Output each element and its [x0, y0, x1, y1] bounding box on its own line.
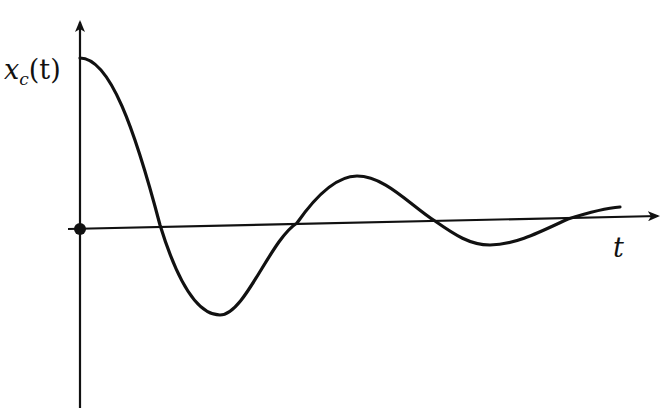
- damped-oscillation-diagram: xc(t) t: [0, 0, 670, 420]
- y-axis-label: xc(t): [4, 54, 61, 89]
- response-curve: [80, 58, 620, 315]
- x-axis-label: t: [613, 232, 624, 263]
- origin-marker: [74, 223, 86, 235]
